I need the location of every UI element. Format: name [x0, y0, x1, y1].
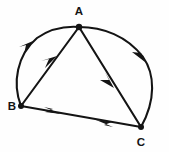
vertex-dot-c: [138, 124, 144, 130]
chord-a-to-c: [79, 27, 141, 127]
figure-canvas: A B C: [0, 0, 169, 152]
arc-a-to-c: [79, 27, 152, 127]
geometry-figure: A B C: [0, 0, 169, 152]
vertex-label-c: C: [137, 136, 145, 148]
vertex-dot-a: [76, 24, 82, 30]
vertex-label-b: B: [8, 100, 16, 112]
vertex-dot-b: [18, 103, 24, 109]
chord-b-c: [21, 106, 141, 127]
vertex-label-a: A: [75, 5, 83, 17]
chord-b-to-a: [21, 27, 79, 106]
